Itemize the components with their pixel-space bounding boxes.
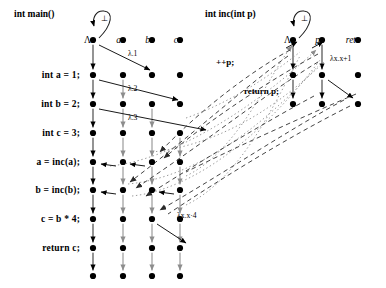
edge-label-lambda-3: λ.3	[128, 113, 137, 122]
inc-internal-edges	[328, 80, 353, 98]
column-label-inc-ret: ret	[346, 35, 356, 45]
column-label-main-lambda: Λ	[84, 35, 91, 45]
code-line-2: int c = 3;	[42, 128, 80, 138]
panel-title-inc: int inc(int p)	[205, 9, 256, 19]
column-label-inc-lambda: Λ	[284, 35, 291, 45]
code-line-5: c = b * 4;	[41, 214, 80, 224]
column-chains-main	[93, 45, 180, 270]
edge-label-increment-p: ++p;	[216, 57, 234, 67]
demand-edges-dotted	[110, 46, 324, 205]
code-line-6: return c;	[42, 243, 80, 253]
column-chains-inc	[293, 45, 322, 98]
code-line-4: b = inc(b);	[35, 185, 80, 195]
edge-label-return-p: return p;	[244, 86, 279, 96]
code-line-1: int b = 2;	[41, 99, 80, 109]
self-loop-label-main: ⊥	[101, 14, 108, 23]
edge-label-lambda-2: λ.2	[128, 84, 137, 93]
self-loop-edges	[93, 11, 310, 38]
column-label-main-c: c	[174, 35, 178, 45]
self-loop-label-inc: ⊥	[301, 14, 308, 23]
edge-label-lambda-1: λ.1	[128, 49, 137, 58]
column-label-main-b: b	[145, 35, 150, 45]
edge-label-lambda-plus-1: λx.x+1	[330, 54, 351, 63]
figure-canvas: int main() int inc(int p) int a = 1; int…	[0, 0, 386, 288]
edge-label-lambda-times-4: λx.x·4	[177, 211, 197, 220]
panel-title-main: int main()	[14, 9, 54, 19]
column-label-main-a: a	[116, 35, 121, 45]
code-line-3: a = inc(a);	[37, 157, 81, 167]
graph-nodes-main	[90, 37, 183, 279]
column-label-inc-p: p	[315, 35, 320, 45]
code-line-0: int a = 1;	[42, 70, 80, 80]
